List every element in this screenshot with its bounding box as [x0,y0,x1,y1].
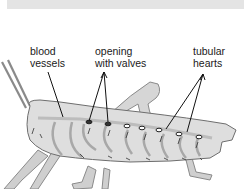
label-tubular-hearts: tubular hearts [193,46,225,69]
label-blood-vessels: blood vessels [30,46,65,69]
grasshopper-diagram [0,0,244,189]
label-opening-with-valves: opening with valves [95,46,146,69]
antennae [2,60,30,108]
